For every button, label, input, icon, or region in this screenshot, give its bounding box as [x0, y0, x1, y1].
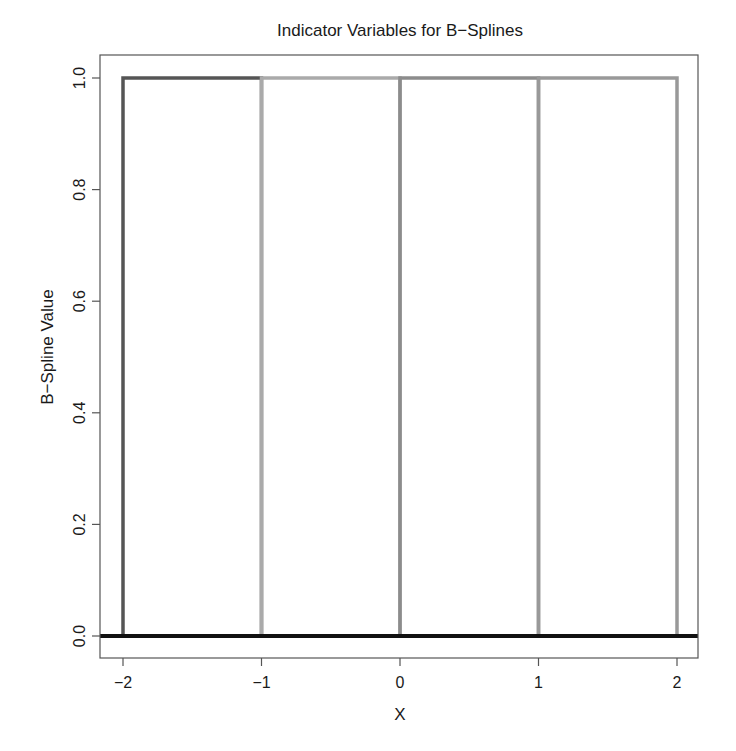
- y-tick-label: 0.0: [71, 625, 88, 647]
- basis-function-b2: [262, 78, 401, 636]
- x-tick-label: −2: [114, 674, 132, 691]
- y-tick-label: 0.8: [71, 178, 88, 200]
- b-spline-chart: Indicator Variables for B−Splines −2−101…: [0, 0, 736, 751]
- x-tick-label: −1: [252, 674, 270, 691]
- y-tick-label: 0.4: [71, 402, 88, 424]
- y-tick-label: 0.2: [71, 513, 88, 535]
- basis-function-b4: [539, 78, 678, 636]
- series-layer: [123, 78, 677, 636]
- y-tick-label: 1.0: [71, 67, 88, 89]
- x-tick-label: 2: [673, 674, 682, 691]
- x-axis-label: X: [394, 705, 405, 724]
- y-tick-label: 0.6: [71, 290, 88, 312]
- x-axis: −2−1012: [114, 658, 682, 691]
- basis-function-b1: [123, 78, 262, 636]
- chart-title: Indicator Variables for B−Splines: [277, 21, 523, 40]
- basis-function-b3: [400, 78, 539, 636]
- x-tick-label: 1: [534, 674, 543, 691]
- y-axis: 0.00.20.40.60.81.0: [71, 67, 100, 647]
- x-tick-label: 0: [396, 674, 405, 691]
- y-axis-label: B−Spline Value: [38, 289, 57, 404]
